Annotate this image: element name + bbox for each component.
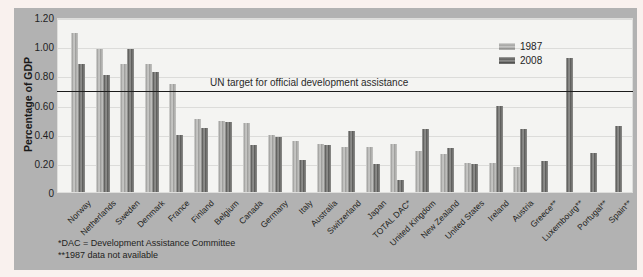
bar-1987-total-dac- xyxy=(390,144,397,192)
bar-1987-austria xyxy=(513,167,520,192)
y-axis-tick: 0.40 xyxy=(35,130,54,141)
bar-2008-portugal- xyxy=(590,153,597,192)
legend-swatch-1987 xyxy=(499,43,515,50)
y-axis: 1.201.000.800.600.400.200 xyxy=(14,18,54,193)
y-axis-tick: 0.60 xyxy=(35,101,54,112)
x-axis-label: Spain** xyxy=(606,198,633,225)
bar-2008-luxembourg- xyxy=(566,58,573,192)
gridline xyxy=(58,19,632,20)
footnote-1987: **1987 data not available xyxy=(58,250,158,260)
bar-2008-france xyxy=(176,135,183,192)
bar-2008-sweden xyxy=(127,49,134,192)
bar-1987-canada xyxy=(243,123,250,192)
un-target-label: UN target for official development assis… xyxy=(210,77,408,88)
bar-2008-new-zealand xyxy=(447,148,454,192)
legend: 19872008 xyxy=(499,39,542,67)
legend-item-1987: 1987 xyxy=(499,39,542,53)
legend-label: 1987 xyxy=(520,41,542,52)
bar-2008-japan xyxy=(373,164,380,192)
y-axis-tick: 0 xyxy=(48,188,54,199)
bar-1987-australia xyxy=(317,144,324,192)
bar-1987-new-zealand xyxy=(440,154,447,192)
bar-2008-norway xyxy=(78,64,85,192)
bar-1987-switzerland xyxy=(341,147,348,192)
bar-1987-netherlands xyxy=(96,49,103,192)
x-axis-label: Finland xyxy=(189,198,216,225)
bar-2008-spain- xyxy=(615,126,622,192)
bar-1987-sweden xyxy=(120,64,127,192)
y-axis-tick: 1.00 xyxy=(35,42,54,53)
bar-1987-france xyxy=(169,84,176,192)
bar-1987-italy xyxy=(292,141,299,192)
un-target-line xyxy=(57,91,633,92)
bar-1987-united-kingdom xyxy=(415,151,422,192)
y-axis-tick: 0.80 xyxy=(35,71,54,82)
bar-2008-australia xyxy=(324,145,331,192)
bar-1987-united-states xyxy=(464,163,471,192)
bar-2008-united-states xyxy=(471,164,478,192)
y-axis-tick: 0.20 xyxy=(35,159,54,170)
legend-swatch-2008 xyxy=(499,57,515,64)
bar-2008-belgium xyxy=(225,122,232,192)
x-axis-label: Ireland xyxy=(485,198,510,223)
bar-1987-japan xyxy=(366,147,373,192)
bar-2008-greece- xyxy=(541,161,548,192)
bar-1987-denmark xyxy=(145,64,152,192)
bar-1987-ireland xyxy=(489,163,496,192)
bar-2008-austria xyxy=(520,129,527,192)
x-axis-label: Italy xyxy=(296,198,314,216)
bar-2008-united-kingdom xyxy=(422,129,429,192)
bar-2008-finland xyxy=(201,128,208,192)
bar-2008-italy xyxy=(299,160,306,192)
legend-label: 2008 xyxy=(520,55,542,66)
bar-2008-ireland xyxy=(496,106,503,192)
legend-item-2008: 2008 xyxy=(499,53,542,67)
bar-1987-norway xyxy=(71,33,78,192)
y-axis-tick: 1.20 xyxy=(35,13,54,24)
bar-1987-germany xyxy=(268,135,275,192)
gridline xyxy=(58,48,632,49)
bar-2008-total-dac- xyxy=(397,180,404,192)
x-axis-label: Belgium xyxy=(212,198,241,227)
bar-2008-netherlands xyxy=(103,75,110,192)
bar-1987-finland xyxy=(194,119,201,192)
x-axis-label: France xyxy=(166,198,192,224)
footnote-dac: *DAC = Development Assistance Committee xyxy=(58,238,235,248)
bar-2008-switzerland xyxy=(348,131,355,192)
bar-1987-belgium xyxy=(218,121,225,192)
bar-2008-canada xyxy=(250,145,257,192)
bar-2008-germany xyxy=(275,137,282,192)
plot-area xyxy=(57,18,633,193)
